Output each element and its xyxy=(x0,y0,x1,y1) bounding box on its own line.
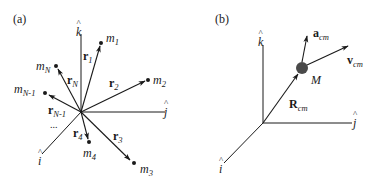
mass-dot-m1 xyxy=(99,41,103,45)
mass-dot-m3 xyxy=(132,161,136,165)
vector-label-r2: r2 xyxy=(109,77,119,92)
vector-vcm xyxy=(307,46,348,65)
ellipsis-label: ... xyxy=(50,120,58,130)
vector-label-r1: r1 xyxy=(83,50,93,65)
mass-dot-mN xyxy=(54,64,58,68)
vector-label-r4: r4 xyxy=(73,127,83,142)
mass-label-mN: mN xyxy=(36,60,50,75)
k-hat-label-a: k xyxy=(76,26,81,38)
center-of-mass-ball xyxy=(296,62,308,74)
vector-label-rN-1: rN-1 xyxy=(48,104,66,119)
j-hat-label-a: j xyxy=(164,106,167,118)
mass-dot-m2 xyxy=(146,78,150,82)
panel-b-axes xyxy=(224,45,352,163)
mass-label-M: M xyxy=(311,74,321,86)
i-axis-b xyxy=(224,123,263,163)
vector-acm xyxy=(302,36,307,62)
panel-a-label: (a) xyxy=(13,13,26,25)
mass-label-m4: m4 xyxy=(83,147,96,162)
i-hat-label-b: i xyxy=(219,163,222,175)
panel-a-axes xyxy=(42,34,165,154)
i-hat-label-a: i xyxy=(38,155,41,167)
vector-label-r3: r3 xyxy=(113,130,123,145)
vector-label-Rcm: Rcm xyxy=(289,98,308,113)
mass-label-mN-1: mN-1 xyxy=(14,83,35,98)
mass-dot-mN-1 xyxy=(43,91,47,95)
mass-label-m2: m2 xyxy=(153,74,166,89)
vector-label-acm: acm xyxy=(313,27,329,42)
panel-b-label: (b) xyxy=(215,13,229,25)
panel-a-vectors xyxy=(49,46,145,160)
vector-label-vcm: vcm xyxy=(347,54,363,69)
mass-dot-m4 xyxy=(87,140,91,144)
vector-label-rN: rN xyxy=(67,74,78,89)
mass-label-m3: m3 xyxy=(140,163,153,178)
j-hat-label-b: j xyxy=(353,117,356,129)
k-hat-label-b: k xyxy=(258,36,263,48)
mass-label-m1: m1 xyxy=(106,32,119,47)
